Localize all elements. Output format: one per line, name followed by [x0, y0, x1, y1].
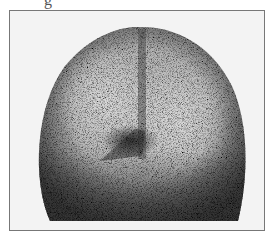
figure-caption-fragment: g: [44, 0, 52, 9]
scan-image-frame: [9, 10, 265, 231]
scintigraphy-scan-image: [10, 11, 264, 230]
